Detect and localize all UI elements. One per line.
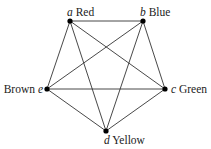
graph-diagram: a Red b Blue c Green d Yellow Brown e [0, 0, 211, 149]
label-node-d: d Yellow [104, 134, 146, 146]
node-d [103, 128, 108, 133]
edge-a-d [70, 21, 106, 131]
label-node-e: Brown e [4, 83, 43, 95]
edges [47, 21, 165, 131]
node-e-id: e [38, 83, 43, 95]
node-c [162, 86, 167, 91]
label-node-b: b Blue [140, 6, 170, 18]
edge-b-c [143, 21, 165, 89]
node-b [140, 18, 145, 23]
node-d-color: Yellow [112, 134, 145, 146]
node-c-color: Green [179, 83, 207, 95]
node-c-id: c [171, 83, 176, 95]
nodes [44, 18, 167, 133]
node-b-id: b [140, 6, 146, 18]
node-d-id: d [104, 134, 110, 146]
edge-a-c [70, 21, 165, 89]
label-node-c: c Green [171, 83, 207, 95]
node-e-color: Brown [4, 83, 36, 95]
node-a-id: a [67, 6, 73, 18]
node-b-color: Blue [149, 6, 171, 18]
label-node-a: a Red [67, 6, 94, 18]
edge-b-d [106, 21, 143, 131]
labels: a Red b Blue c Green d Yellow Brown e [4, 6, 208, 146]
edge-b-e [47, 21, 143, 89]
node-a [67, 18, 72, 23]
node-a-color: Red [76, 6, 95, 18]
edge-d-e [47, 89, 106, 131]
edge-c-d [106, 89, 165, 131]
edge-a-e [47, 21, 70, 89]
node-e [44, 86, 49, 91]
